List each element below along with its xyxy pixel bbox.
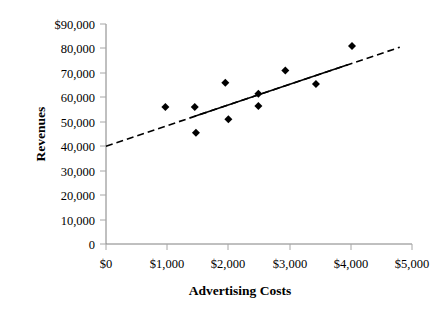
x-tick-label-5000: $5,000	[395, 257, 429, 271]
x-axis-ticks	[106, 244, 412, 250]
x-tick-label-0: $0	[100, 257, 113, 271]
data-point-group	[161, 42, 356, 137]
data-point-marker	[221, 79, 229, 87]
y-tick-label-80000: 80,000	[61, 42, 95, 56]
y-tick-label-40000: 40,000	[61, 140, 95, 154]
data-point-marker	[161, 103, 169, 111]
data-point-marker	[191, 103, 199, 111]
trend-line-solid-segment	[195, 65, 348, 117]
x-tick-label-1000: $1,000	[150, 257, 184, 271]
x-tick-label-4000: $4,000	[334, 257, 368, 271]
y-axis-title: Revenues	[33, 107, 48, 162]
data-point-marker	[281, 66, 289, 74]
data-point-marker	[312, 80, 320, 88]
y-tick-label-0: 0	[89, 238, 95, 252]
x-axis-title: Advertising Costs	[189, 283, 291, 298]
y-tick-label-50000: 50,000	[61, 116, 95, 130]
data-point-marker	[254, 102, 262, 110]
x-tick-label-2000: $2,000	[211, 257, 245, 271]
chart-canvas: $90,000 80,000 70,000 60,000 50,000 40,0…	[0, 0, 448, 314]
y-tick-label-90000: $90,000	[54, 18, 95, 32]
data-point-marker	[348, 42, 356, 50]
scatter-chart: $90,000 80,000 70,000 60,000 50,000 40,0…	[0, 0, 448, 314]
y-tick-label-10000: 10,000	[61, 214, 95, 228]
y-tick-label-60000: 60,000	[61, 91, 95, 105]
trend-line-group	[106, 47, 400, 146]
x-tick-label-3000: $3,000	[273, 257, 307, 271]
data-point-marker	[224, 115, 232, 123]
data-point-marker	[192, 129, 200, 137]
y-tick-label-20000: 20,000	[61, 189, 95, 203]
y-tick-label-30000: 30,000	[61, 165, 95, 179]
y-tick-label-70000: 70,000	[61, 67, 95, 81]
y-axis-ticks	[100, 24, 106, 244]
